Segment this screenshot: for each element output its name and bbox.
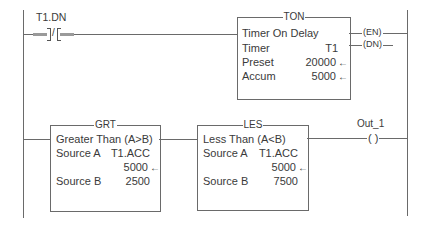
coil-tag-label: Out_1 xyxy=(357,118,384,130)
right-power-rail xyxy=(407,10,408,216)
grt-source-b-value[interactable]: 2500 xyxy=(126,175,150,188)
rung0-wire-to-ton xyxy=(74,34,237,35)
xio-contact[interactable]: / xyxy=(24,27,74,41)
les-mnemonic: LES xyxy=(243,119,264,130)
value-arrow-icon: ← xyxy=(338,71,348,82)
les-source-b-value[interactable]: 7500 xyxy=(274,175,298,188)
ton-accum-label: Accum xyxy=(242,70,276,83)
les-source-a-label: Source A xyxy=(203,147,248,160)
grt-source-a-value: 5000← xyxy=(124,161,160,174)
les-instruction-block[interactable]: LES Less Than (A<B) Source A T1.ACC 5000… xyxy=(197,125,309,211)
left-power-rail xyxy=(23,10,24,218)
ton-accum-value[interactable]: 5000← xyxy=(312,70,348,83)
contact-left-highlight xyxy=(33,33,47,36)
les-source-a-number: 5000 xyxy=(272,161,296,173)
ton-instruction-block[interactable]: TON Timer On Delay Timer T1 Preset 20000… xyxy=(237,17,351,100)
grt-source-b-label: Source B xyxy=(56,175,101,188)
contact-right-highlight xyxy=(60,33,74,36)
value-arrow-icon: ← xyxy=(150,162,160,173)
ton-timer-label: Timer xyxy=(242,42,270,55)
output-coil[interactable]: ( ) xyxy=(367,132,379,144)
contact-tag-label: T1.DN xyxy=(36,11,66,23)
en-label: EN xyxy=(366,27,379,37)
grt-instruction-block[interactable]: GRT Greater Than (A>B) Source A T1.ACC 5… xyxy=(50,125,161,212)
grt-source-a-number: 5000 xyxy=(124,161,148,173)
grt-title: Greater Than (A>B) xyxy=(56,133,153,146)
ton-preset-label: Preset xyxy=(242,56,274,69)
ton-preset-number: 20000 xyxy=(305,56,336,68)
grt-source-a-tag[interactable]: T1.ACC xyxy=(111,147,150,160)
ton-mnemonic: TON xyxy=(283,11,306,22)
contact-slash-icon: / xyxy=(52,26,55,40)
dn-label: DN xyxy=(366,39,379,49)
ton-accum-number: 5000 xyxy=(312,70,336,82)
ton-preset-value[interactable]: 20000← xyxy=(305,56,348,69)
ton-title: Timer On Delay xyxy=(242,27,319,40)
rung1-wire-grt-to-les xyxy=(159,139,197,140)
grt-source-a-label: Source A xyxy=(56,147,101,160)
value-arrow-icon: ← xyxy=(338,57,348,68)
rung1-wire-to-grt xyxy=(24,139,50,140)
les-title: Less Than (A<B) xyxy=(203,133,286,146)
les-source-a-value: 5000← xyxy=(272,161,308,174)
les-source-a-tag[interactable]: T1.ACC xyxy=(259,147,298,160)
ton-dn-output[interactable]: (DN) xyxy=(362,39,383,50)
value-arrow-icon: ← xyxy=(298,162,308,173)
les-source-b-label: Source B xyxy=(203,175,248,188)
contact-left-bracket xyxy=(47,28,51,41)
rung1-wire-to-coil xyxy=(307,138,407,139)
grt-mnemonic: GRT xyxy=(94,119,117,130)
ton-timer-value[interactable]: T1 xyxy=(325,42,338,55)
ton-en-output[interactable]: (EN) xyxy=(362,27,383,38)
